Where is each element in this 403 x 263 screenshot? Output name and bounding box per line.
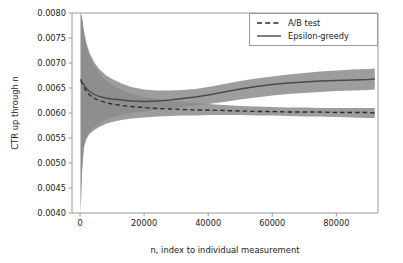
chart-figure: 0.00400.00450.00500.00550.00600.00650.00…: [0, 0, 403, 263]
y-tick-label: 0.0065: [37, 83, 66, 93]
x-axis-ticklabels: 020000400006000080000: [77, 218, 349, 228]
chart-canvas: 0.00400.00450.00500.00550.00600.00650.00…: [0, 0, 403, 263]
y-tick-label: 0.0080: [37, 8, 66, 18]
y-axis-ticklabels: 0.00400.00450.00500.00550.00600.00650.00…: [37, 8, 66, 218]
x-axis-tickmarks: [80, 213, 336, 217]
y-tick-label: 0.0060: [37, 108, 66, 118]
y-tick-label: 0.0070: [37, 58, 66, 68]
y-tick-label: 0.0040: [37, 208, 66, 218]
y-tick-label: 0.0075: [37, 33, 66, 43]
y-axis-tickmarks: [69, 13, 73, 213]
x-tick-label: 80000: [323, 218, 349, 228]
legend-label-epsilon-greedy: Epsilon-greedy: [288, 31, 349, 41]
x-tick-label: 0: [77, 218, 82, 228]
x-tick-label: 60000: [259, 218, 285, 228]
y-axis-title: CTR up through n: [10, 76, 20, 150]
legend-label-ab-test: A/B test: [288, 18, 321, 28]
x-tick-label: 40000: [195, 218, 221, 228]
y-tick-label: 0.0045: [37, 183, 66, 193]
legend: A/B test Epsilon-greedy: [250, 14, 378, 46]
y-tick-label: 0.0055: [37, 133, 66, 143]
y-tick-label: 0.0050: [37, 158, 66, 168]
x-tick-label: 20000: [131, 218, 157, 228]
x-axis-title: n, index to individual measurement: [150, 245, 300, 255]
